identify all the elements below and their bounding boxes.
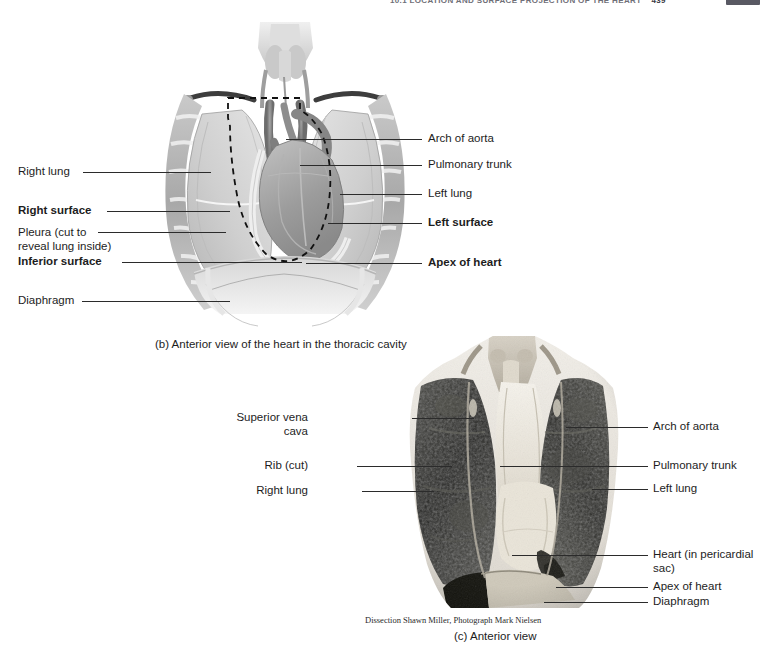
figure-b-illustration [150, 22, 420, 327]
leader-b-left-lung [340, 194, 422, 195]
leader-b-apex-of-heart [306, 263, 422, 264]
cadaver-dissection-photo [385, 336, 635, 614]
leader-b-inferior-surface [122, 262, 302, 263]
label-c-heart-pericardial-sac: Heart (in pericardial sac) [653, 548, 757, 575]
page-number: 439 [651, 0, 665, 5]
label-c-rib-cut: Rib (cut) [238, 459, 308, 473]
diaphragm [194, 256, 376, 326]
label-c-pulmonary-trunk: Pulmonary trunk [653, 459, 737, 473]
label-b-right-lung: Right lung [18, 165, 70, 179]
photo-credit: Dissection Shawn Miller, Photograph Mark… [365, 615, 541, 625]
caption-figure-c: (c) Anterior view [454, 630, 536, 642]
leader-c-superior-vena-cava [412, 418, 474, 419]
label-b-inferior-surface: Inferior surface [18, 255, 102, 269]
leader-c-pulmonary-trunk [500, 466, 648, 467]
label-c-superior-vena-cava: Superior vena cava [230, 411, 308, 438]
label-b-diaphragm: Diaphragm [18, 294, 74, 308]
leader-c-apex-of-heart [556, 587, 648, 588]
label-b-arch-of-aorta: Arch of aorta [428, 132, 494, 146]
label-c-diaphragm: Diaphragm [653, 595, 709, 609]
figure-c-photograph [385, 336, 635, 614]
label-c-left-lung: Left lung [653, 482, 697, 496]
leader-b-pulmonary-trunk [300, 165, 422, 166]
neck-region [258, 22, 313, 108]
leader-c-rib-cut [357, 466, 452, 467]
leader-c-right-lung [362, 491, 434, 492]
chapter-tab [726, 0, 760, 5]
label-c-arch-of-aorta: Arch of aorta [653, 420, 719, 434]
leader-b-diaphragm [82, 301, 230, 302]
label-c-right-lung: Right lung [232, 484, 308, 498]
label-b-right-surface: Right surface [18, 204, 92, 218]
torso-region [385, 336, 635, 614]
caption-figure-b: (b) Anterior view of the heart in the th… [155, 338, 407, 350]
label-c-apex-of-heart: Apex of heart [653, 580, 721, 594]
running-head: 10.1 LOCATION AND SURFACE PROJECTION OF … [390, 0, 720, 6]
label-b-pulmonary-trunk: Pulmonary trunk [428, 158, 512, 172]
label-b-left-lung: Left lung [428, 187, 472, 201]
leader-c-diaphragm [544, 602, 648, 603]
running-head-title: 10.1 LOCATION AND SURFACE PROJECTION OF … [390, 0, 641, 5]
leader-c-arch-of-aorta [566, 427, 648, 428]
textbook-page: 10.1 LOCATION AND SURFACE PROJECTION OF … [0, 0, 764, 663]
thoracic-cavity-illustration [150, 22, 420, 327]
leader-b-left-surface [328, 223, 422, 224]
leader-c-left-lung [592, 489, 648, 490]
leader-c-heart-pericardial-sac [512, 555, 648, 556]
label-b-left-surface: Left surface [428, 216, 493, 230]
leader-b-right-surface [107, 211, 230, 212]
leader-b-right-lung [83, 172, 211, 173]
photo-vignette [385, 336, 635, 614]
leader-b-pleura [98, 232, 226, 233]
label-b-apex-of-heart: Apex of heart [428, 256, 502, 270]
leader-b-arch-of-aorta [286, 139, 422, 140]
label-b-pleura: Pleura (cut to reveal lung inside) [18, 226, 128, 253]
